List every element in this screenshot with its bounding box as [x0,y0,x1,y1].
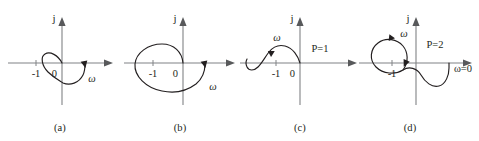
panel-a: j -1 0 ω (a) [0,0,120,141]
nyquist-curve-b [135,44,205,92]
origin-label-b: 0 [173,68,178,79]
panel-b-plot: j -1 0 ω [120,0,240,141]
omega-zero-label-d: ω=0 [454,63,472,74]
imag-axis-arrowhead-b [179,17,186,26]
nyquist-curve-a [42,53,85,84]
real-axis-arrowhead-c [348,59,357,66]
panel-caption-a: (a) [0,122,120,133]
real-axis-arrowhead-b [226,59,235,66]
imag-axis-arrowhead-c [296,17,303,26]
real-axis-arrowhead-a [104,59,113,66]
omega-label-b: ω [209,81,216,92]
nyquist-curve-c [246,46,300,70]
imag-axis-arrowhead-a [58,17,65,26]
tick-label-minus-one-b: -1 [149,68,158,79]
panel-d: j -1 ω P=2 ω=0 (d) [359,0,479,141]
panel-b: j -1 0 ω (b) [120,0,240,141]
imag-axis-label-c: j [289,12,293,24]
panel-c: j -1 0 ω P=1 (c) [240,0,360,141]
imag-axis-label-b: j [172,12,176,24]
panel-a-plot: j -1 0 ω [0,0,120,141]
panel-caption-b: (b) [120,122,240,133]
panel-caption-c: (c) [240,122,360,133]
imag-axis-arrowhead-d [412,17,419,26]
p-value-label-c: P=1 [311,43,328,54]
origin-label-c: 0 [290,68,295,79]
nyquist-figure: j -1 0 ω (a) j -1 0 ω [0,0,479,141]
panel-d-plot: j -1 ω P=2 ω=0 [359,0,479,141]
imag-axis-label-d: j [405,12,409,24]
omega-label-d: ω [400,28,407,39]
tick-label-minus-one-c: -1 [272,68,281,79]
omega-label-c: ω [273,32,280,43]
panel-c-plot: j -1 0 ω P=1 [240,0,360,141]
imag-axis-label-a: j [51,12,55,24]
omega-label-a: ω [88,73,95,84]
panel-caption-d: (d) [359,122,461,133]
p-value-label-d: P=2 [426,39,443,50]
tick-label-minus-one-a: -1 [32,68,41,79]
nyquist-curve-d-right-arc [403,63,449,86]
